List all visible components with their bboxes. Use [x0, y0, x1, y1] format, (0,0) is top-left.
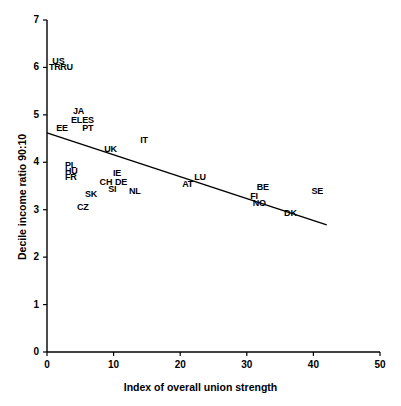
x-tick-label: 30: [232, 360, 262, 370]
data-point-label: EL: [71, 116, 82, 125]
data-point-label: AT: [182, 180, 193, 189]
x-tick-label: 0: [32, 360, 62, 370]
y-tick-label: 1: [17, 300, 39, 310]
y-tick-label: 6: [17, 62, 39, 72]
data-point-label: IT: [140, 136, 148, 145]
data-point-label: NO: [253, 199, 266, 208]
data-point-label: SE: [311, 187, 323, 196]
x-tick-label: 40: [298, 360, 328, 370]
y-tick-label: 5: [17, 110, 39, 120]
scatter-chart: 01234567 01020304050 USTRRUJAELESEEPTITU…: [0, 0, 401, 406]
y-tick-label: 7: [17, 15, 39, 25]
data-point-label: UK: [104, 145, 117, 154]
x-tick-label: 20: [165, 360, 195, 370]
x-axis-title: Index of overall union strength: [0, 381, 401, 393]
data-point-label: LU: [194, 173, 206, 182]
x-tick-label: 50: [365, 360, 395, 370]
data-point-label: SK: [85, 190, 97, 199]
data-point-label: SI: [108, 185, 116, 194]
data-point-label: BE: [257, 183, 269, 192]
data-point-label: FR: [65, 173, 77, 182]
data-point-label: DK: [284, 209, 297, 218]
data-point-label: TR: [49, 63, 61, 72]
axis-lines: [47, 20, 380, 352]
data-point-label: EE: [56, 124, 68, 133]
x-tick-label: 10: [99, 360, 129, 370]
y-tick-label: 0: [17, 347, 39, 357]
data-point-label: PT: [82, 124, 93, 133]
data-point-label: CZ: [77, 203, 89, 212]
data-point-label: DE: [115, 178, 127, 187]
data-point-label: RU: [60, 63, 73, 72]
data-point-label: NL: [129, 187, 141, 196]
y-axis-title: Decile income ratio 90:10: [16, 134, 28, 260]
